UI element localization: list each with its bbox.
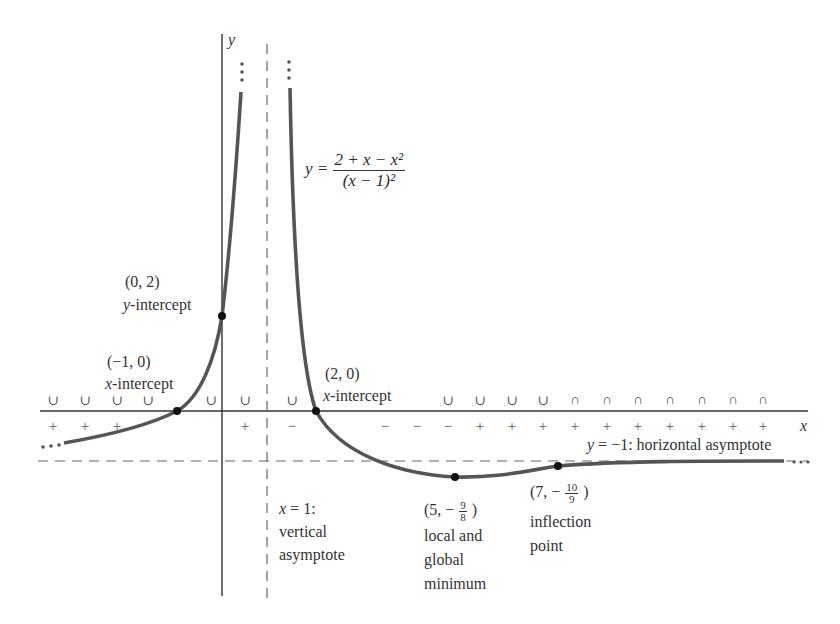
inflection-coord-b: )	[583, 483, 588, 500]
concavity-symbol: ∪	[204, 392, 218, 409]
ellipsis-top-left	[240, 62, 244, 82]
y-axis-label: y	[228, 30, 235, 49]
concavity-symbol: ∪	[285, 392, 299, 409]
sign-symbol: −	[410, 418, 424, 435]
concavity-symbol: ∪	[46, 392, 60, 409]
concavity-symbol: ∪	[78, 392, 92, 409]
concavity-symbol: ∩	[663, 392, 677, 408]
point-x-intercept-2	[312, 407, 320, 415]
sign-symbol: +	[568, 418, 582, 435]
neg1-intercept-label: x-intercept	[105, 374, 173, 393]
sign-symbol: +	[695, 418, 709, 435]
concavity-symbol: ∪	[110, 392, 124, 409]
x2-intercept-label: x-intercept	[323, 386, 391, 405]
minimum-fraction: 9 8	[459, 500, 467, 523]
vertical-asymptote-label: x = 1:	[279, 499, 316, 518]
minimum-coord-a: (5, −	[424, 501, 454, 518]
ellipsis-right	[792, 460, 809, 463]
inflection-coord-a: (7, −	[530, 483, 560, 500]
point-local-minimum	[451, 473, 459, 481]
vasym-text: = 1:	[286, 500, 315, 517]
hasym-text: = −1: horizontal asymptote	[594, 436, 771, 453]
sign-symbol: +	[505, 418, 519, 435]
equation-denominator: (x − 1)²	[343, 171, 395, 190]
equation-lhs: y =	[305, 159, 328, 178]
inflection-fraction-den: 9	[565, 494, 578, 505]
concavity-symbol: ∪	[238, 392, 252, 409]
sign-symbol: +	[756, 418, 770, 435]
vertical-asymptote-line3: asymptote	[279, 545, 345, 564]
concavity-symbol: ∪	[536, 392, 550, 409]
sign-symbol: −	[441, 418, 455, 435]
sign-symbol: +	[238, 418, 252, 435]
concavity-symbol: ∪	[505, 392, 519, 409]
inflection-fraction: 10 9	[565, 482, 578, 505]
concavity-symbol: ∪	[141, 392, 155, 409]
minimum-fraction-den: 8	[459, 512, 467, 523]
minimum-line1: local and	[424, 526, 482, 545]
minimum-line3: minimum	[424, 574, 486, 593]
ellipsis-top-right	[287, 60, 291, 80]
point-y-intercept	[218, 312, 226, 320]
minimum-coord: (5, − 9 8 )	[424, 500, 477, 523]
concavity-symbol: ∩	[756, 392, 770, 408]
concavity-symbol: ∩	[631, 392, 645, 408]
sign-symbol: −	[378, 418, 392, 435]
neg1-intercept-coord: (−1, 0)	[107, 352, 151, 371]
point-x-intercept-neg1	[173, 407, 181, 415]
x2-intercept-text: -intercept	[330, 387, 391, 404]
neg1-intercept-text: -intercept	[112, 375, 173, 392]
inflection-line2: point	[530, 536, 563, 555]
function-equation: y = 2 + x − x² (x − 1)²	[305, 150, 405, 191]
concavity-symbol: ∩	[568, 392, 582, 408]
sign-symbol: +	[473, 418, 487, 435]
x2-intercept-coord: (2, 0)	[325, 364, 360, 383]
concavity-symbol: ∩	[726, 392, 740, 408]
inflection-line1: inflection	[530, 512, 591, 531]
sign-symbol: +	[631, 418, 645, 435]
sign-symbol: +	[726, 418, 740, 435]
point-inflection	[554, 462, 562, 470]
concavity-symbol: ∩	[600, 392, 614, 408]
x-axis-label: x	[800, 416, 807, 435]
sign-symbol: +	[78, 418, 92, 435]
inflection-coord: (7, − 10 9 )	[530, 482, 589, 505]
concavity-symbol: ∪	[441, 392, 455, 409]
sign-symbol: +	[110, 418, 124, 435]
sign-symbol: −	[285, 418, 299, 435]
sign-symbol: +	[46, 418, 60, 435]
minimum-line2: global	[424, 550, 464, 569]
vertical-asymptote-line2: vertical	[279, 522, 327, 541]
equation-numerator: 2 + x − x²	[333, 150, 406, 171]
concavity-symbol: ∩	[695, 392, 709, 408]
sign-symbol: +	[600, 418, 614, 435]
minimum-coord-b: )	[472, 501, 477, 518]
horizontal-asymptote-label: y = −1: horizontal asymptote	[587, 435, 771, 454]
concavity-symbol: ∪	[473, 392, 487, 409]
equation-fraction: 2 + x − x² (x − 1)²	[333, 150, 406, 191]
y-intercept-label: y-intercept	[123, 295, 191, 314]
sign-symbol: +	[663, 418, 677, 435]
y-intercept-coord: (0, 2)	[125, 272, 160, 291]
sign-symbol: +	[536, 418, 550, 435]
y-intercept-text: -intercept	[130, 296, 191, 313]
ellipsis-left	[41, 443, 61, 449]
